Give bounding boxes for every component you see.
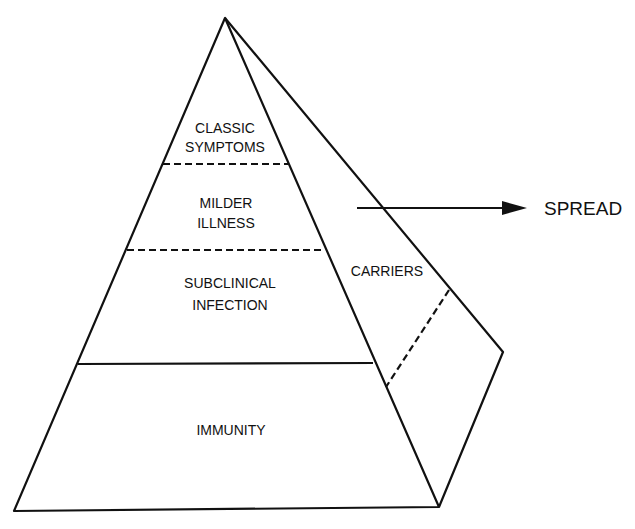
label-carriers: CARRIERS [351,263,423,279]
label-immunity: IMMUNITY [196,422,266,438]
label-milder-1: MILDER [200,195,253,211]
pyramid-diagram: CLASSIC SYMPTOMS MILDER ILLNESS SUBCLINI… [0,0,635,529]
label-milder-2: ILLNESS [197,215,255,231]
label-spread: SPREAD [544,198,622,219]
label-classic-1: CLASSIC [195,120,255,136]
divider-carriers [386,290,449,387]
label-subclinical-1: SUBCLINICAL [184,275,276,291]
label-subclinical-2: INFECTION [192,297,267,313]
label-classic-2: SYMPTOMS [185,139,265,155]
spread-arrow-head [502,201,527,215]
divider-subclinical-immunity [78,363,373,364]
